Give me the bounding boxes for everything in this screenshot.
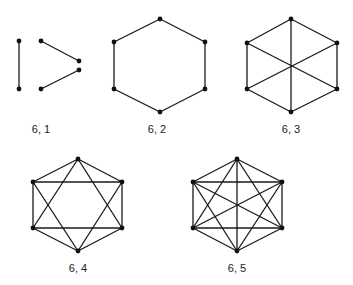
graph-edge: [114, 89, 160, 112]
graph-vertex: [280, 226, 285, 231]
graph-vertex: [289, 17, 294, 22]
graph-g61: [17, 39, 82, 92]
regular-graphs-figure: 6, 1 6, 2 6, 3 6, 4 6, 5: [0, 0, 353, 285]
graph-vertex: [17, 39, 22, 44]
graph-vertex: [77, 68, 82, 73]
graph-label-6-4: 6, 4: [69, 262, 87, 274]
graph-label-6-1: 6, 1: [32, 123, 50, 135]
graph-vertex: [280, 180, 285, 185]
graph-vertex: [289, 110, 294, 115]
graph-drawing-area: [0, 0, 353, 285]
graph-vertex: [76, 249, 81, 254]
graph-vertex: [245, 87, 250, 92]
graph-vertex: [235, 249, 240, 254]
graph-vertex: [203, 40, 208, 45]
graph-vertex: [191, 180, 196, 185]
graph-vertex: [77, 59, 82, 64]
graph-g64: [31, 157, 125, 254]
graph-vertex: [39, 87, 44, 92]
graph-vertex: [203, 87, 208, 92]
graph-label-6-3: 6, 3: [282, 123, 300, 135]
graph-g65: [191, 157, 285, 254]
graph-edge: [160, 19, 205, 42]
graph-vertex: [235, 157, 240, 162]
graph-vertex: [335, 87, 340, 92]
graph-vertex: [39, 39, 44, 44]
graph-edge: [160, 89, 205, 112]
graph-vertex: [112, 87, 117, 92]
graph-edge: [291, 19, 337, 43]
graph-edge: [247, 19, 291, 43]
graph-vertex: [191, 226, 196, 231]
graph-vertex: [158, 110, 163, 115]
graph-vertex: [335, 41, 340, 46]
graph-label-6-2: 6, 2: [148, 123, 166, 135]
graph-vertex: [31, 226, 36, 231]
graph-g62: [112, 17, 208, 115]
graph-vertex: [120, 226, 125, 231]
graph-vertex: [112, 40, 117, 45]
graph-g63: [245, 17, 340, 115]
graph-vertex: [120, 180, 125, 185]
graph-edge: [41, 70, 79, 89]
graph-vertex: [158, 17, 163, 22]
graph-vertex: [245, 41, 250, 46]
graph-vertex: [31, 180, 36, 185]
graph-edge: [247, 89, 291, 112]
graph-edge: [291, 89, 337, 112]
graph-vertex: [76, 157, 81, 162]
graph-edge: [41, 41, 79, 61]
graph-edge: [114, 19, 160, 42]
graph-label-6-5: 6, 5: [228, 262, 246, 274]
graph-vertex: [17, 87, 22, 92]
